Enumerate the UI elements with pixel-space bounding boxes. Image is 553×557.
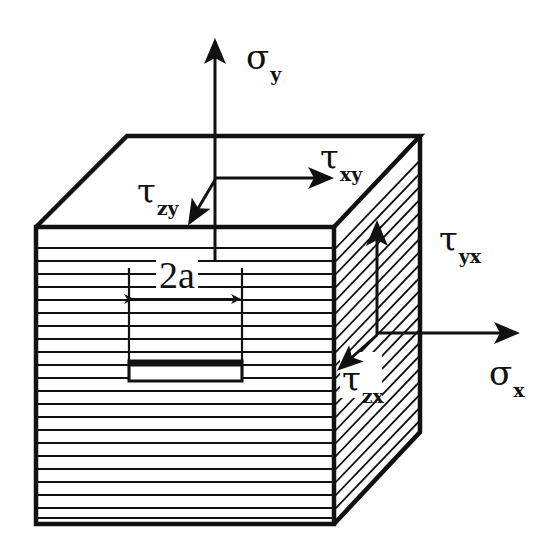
stress-cube-diagram: σy τxy τzy τyx σx τzx 2a	[0, 0, 553, 557]
sigma-y-label: σy	[246, 40, 281, 74]
tau-zy-label: τzy	[137, 174, 179, 208]
tau-zx-label: τzx	[342, 362, 384, 396]
tau-yx-label: τyx	[439, 222, 481, 256]
right-face-hatching	[334, 150, 430, 536]
tau-zy-arrow	[190, 180, 215, 222]
crack-width-label: 2a	[156, 256, 198, 294]
sigma-x-label: σx	[489, 356, 525, 390]
cube-edges	[36, 136, 420, 524]
tau-xy-label: τxy	[320, 140, 362, 174]
